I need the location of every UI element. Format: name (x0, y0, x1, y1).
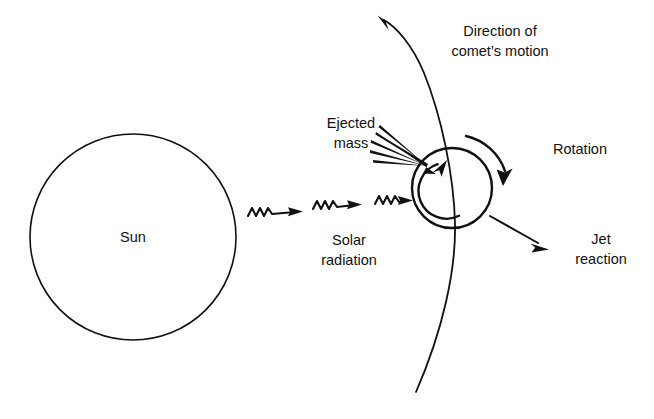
ejected-mass-label-line-1: Ejected (327, 115, 375, 131)
sun-group: Sun (30, 134, 236, 340)
wave-glyph (248, 208, 295, 216)
comet-diagram: Sun Solar radiation (0, 0, 654, 419)
jet-reaction-label-line-2: reaction (575, 251, 627, 267)
jet-reaction-group: Jet reaction (490, 216, 627, 267)
jet-reaction-shaft (490, 216, 538, 243)
direction-label-line-2: comet’s motion (451, 43, 548, 59)
inner-spin-arrowhead (433, 160, 447, 177)
arrowhead (288, 207, 303, 216)
jet-reaction-arrowhead (531, 244, 550, 253)
direction-label-line-1: Direction of (463, 23, 537, 39)
solar-radiation-arrow-3 (375, 196, 413, 205)
rotation-label: Rotation (553, 141, 607, 157)
diagram-canvas: Sun Solar radiation (0, 0, 654, 419)
solar-radiation-arrow-1 (248, 207, 303, 216)
solar-radiation-label-line-2: radiation (321, 252, 377, 268)
orbit-curve (384, 20, 455, 392)
arrowhead (347, 200, 362, 209)
orbit-trajectory: Direction of comet’s motion (378, 16, 549, 393)
solar-radiation-arrows: Solar radiation (248, 196, 413, 268)
sun-label: Sun (120, 229, 146, 245)
rotation-arrow-group: Rotation (466, 136, 607, 186)
jet-reaction-label-line-1: Jet (591, 231, 610, 247)
solar-radiation-arrow-2 (313, 200, 362, 209)
ejected-mass-label-line-2: mass (334, 135, 369, 151)
solar-radiation-label-line-1: Solar (332, 232, 366, 248)
arrowhead (398, 196, 413, 205)
